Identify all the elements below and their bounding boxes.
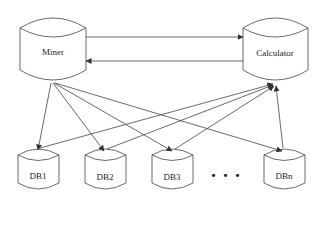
db1-label: DB1: [29, 171, 46, 181]
db1-node: [18, 149, 59, 189]
db2-node: [85, 149, 126, 189]
dbn-label: DBn: [275, 171, 292, 181]
edge-miner-db1: [38, 83, 51, 150]
ellipsis-marker: • • •: [210, 169, 241, 182]
db2-label: DB2: [96, 172, 113, 182]
db3-label: DB3: [163, 172, 180, 182]
calculator-label: Calculator: [256, 48, 294, 58]
edge-miner-db2: [53, 83, 104, 151]
miner-label: Miner: [42, 47, 64, 57]
edge-db3-calculator: [175, 86, 274, 149]
edge-db1-calculator: [40, 84, 273, 148]
dbn-node: [264, 149, 305, 189]
db3-node: [152, 149, 193, 189]
edge-miner-dbn: [55, 83, 282, 151]
edge-dbn-calculator: [276, 86, 283, 148]
